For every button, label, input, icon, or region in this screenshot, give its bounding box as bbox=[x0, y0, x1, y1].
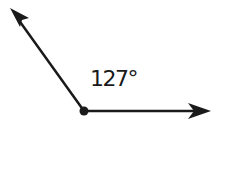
upper-left-ray-line bbox=[18, 19, 84, 111]
vertex-point-icon bbox=[80, 107, 89, 116]
angle-measure-label: 127° bbox=[90, 68, 137, 90]
upper-left-arrowhead-icon bbox=[10, 8, 29, 27]
upper-left-ray bbox=[10, 8, 84, 111]
right-ray bbox=[84, 103, 211, 119]
